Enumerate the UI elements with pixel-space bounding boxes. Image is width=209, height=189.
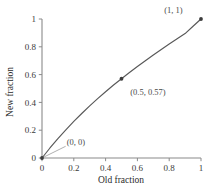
data-marker — [40, 156, 44, 160]
x-tick-label: 0.2 — [68, 163, 79, 173]
x-tick-label: 0 — [40, 163, 45, 173]
y-tick-label: 1 — [32, 14, 37, 24]
data-marker — [120, 77, 124, 81]
x-axis-title: Old fraction — [98, 175, 144, 185]
x-tick-label: 0.8 — [164, 163, 176, 173]
x-tick-label: 1 — [199, 163, 204, 173]
y-tick-label: 0 — [32, 153, 37, 163]
chart-figure: 00.20.40.60.81 00.20.40.60.81 (0, 0)(0.5… — [0, 0, 209, 189]
x-tick-label: 0.4 — [100, 163, 112, 173]
line-chart: 00.20.40.60.81 00.20.40.60.81 (0, 0)(0.5… — [0, 0, 209, 189]
point-annotation: (0.5, 0.57) — [130, 87, 166, 97]
point-annotation: (0, 0) — [67, 137, 86, 147]
y-tick-label: 0.4 — [25, 98, 37, 108]
y-tick-label: 0.6 — [25, 70, 37, 80]
point-annotation: (1, 1) — [164, 5, 183, 15]
y-tick-label: 0.2 — [25, 125, 36, 135]
x-tick-label: 0.6 — [132, 163, 144, 173]
data-marker — [199, 17, 203, 21]
y-tick-label: 0.8 — [25, 42, 37, 52]
y-axis-title: New fraction — [5, 67, 15, 117]
